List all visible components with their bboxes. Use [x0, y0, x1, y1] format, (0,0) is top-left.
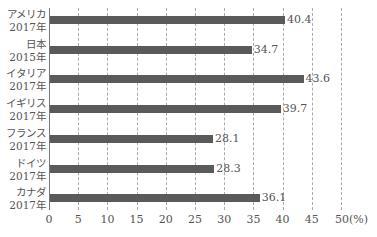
- year-label: 2017年: [0, 170, 46, 183]
- year-label: 2017年: [0, 80, 46, 93]
- year-label: 2017年: [0, 110, 46, 123]
- year-label: 2017年: [0, 199, 46, 212]
- category-label: ドイツ2017年: [0, 157, 46, 183]
- x-tick-label: 30: [217, 213, 231, 226]
- cropped-title-text: [0, 0, 200, 2]
- category-label: アメリカ2017年: [0, 8, 46, 34]
- country-name: アメリカ: [0, 8, 46, 21]
- country-name: 日本: [0, 38, 46, 51]
- country-name: イタリア: [0, 67, 46, 80]
- bar: [50, 194, 260, 202]
- value-label: 36.1: [262, 192, 287, 204]
- bar: [50, 135, 213, 143]
- x-tick-label: 15: [130, 213, 144, 226]
- value-label: 43.6: [306, 73, 331, 85]
- x-tick-label: 50(%): [335, 213, 368, 226]
- country-name: イギリス: [0, 97, 46, 110]
- bar: [50, 165, 214, 173]
- value-label: 28.1: [215, 133, 240, 145]
- bar: [50, 16, 285, 24]
- year-label: 2017年: [0, 140, 46, 153]
- x-tick-label: 35: [246, 213, 260, 226]
- x-tick-label: 20: [159, 213, 173, 226]
- value-label: 34.7: [254, 44, 279, 56]
- country-name: カナダ: [0, 186, 46, 199]
- x-tick-label: 5: [75, 213, 82, 226]
- category-label: フランス2017年: [0, 127, 46, 153]
- x-tick-label: 10: [100, 213, 114, 226]
- x-tick-label: 0: [46, 213, 53, 226]
- value-label: 39.7: [283, 103, 308, 115]
- x-tick-label: 25: [188, 213, 202, 226]
- country-name: ドイツ: [0, 157, 46, 170]
- category-label: イタリア2017年: [0, 67, 46, 93]
- bar: [50, 75, 304, 83]
- x-tick-label: 45: [305, 213, 319, 226]
- x-tick-label: 40: [276, 213, 290, 226]
- gridline: [312, 8, 313, 210]
- value-label: 28.3: [216, 163, 241, 175]
- category-label: カナダ2017年: [0, 186, 46, 212]
- value-label: 40.4: [287, 14, 312, 26]
- category-label: 日本2015年: [0, 38, 46, 64]
- year-label: 2017年: [0, 21, 46, 34]
- bar: [50, 46, 252, 54]
- country-name: フランス: [0, 127, 46, 140]
- gridline: [341, 8, 342, 210]
- year-label: 2015年: [0, 51, 46, 64]
- bar: [50, 105, 281, 113]
- category-label: イギリス2017年: [0, 97, 46, 123]
- horizontal-bar-chart: アメリカ2017年40.4日本2015年34.7イタリア2017年43.6イギリ…: [0, 0, 377, 237]
